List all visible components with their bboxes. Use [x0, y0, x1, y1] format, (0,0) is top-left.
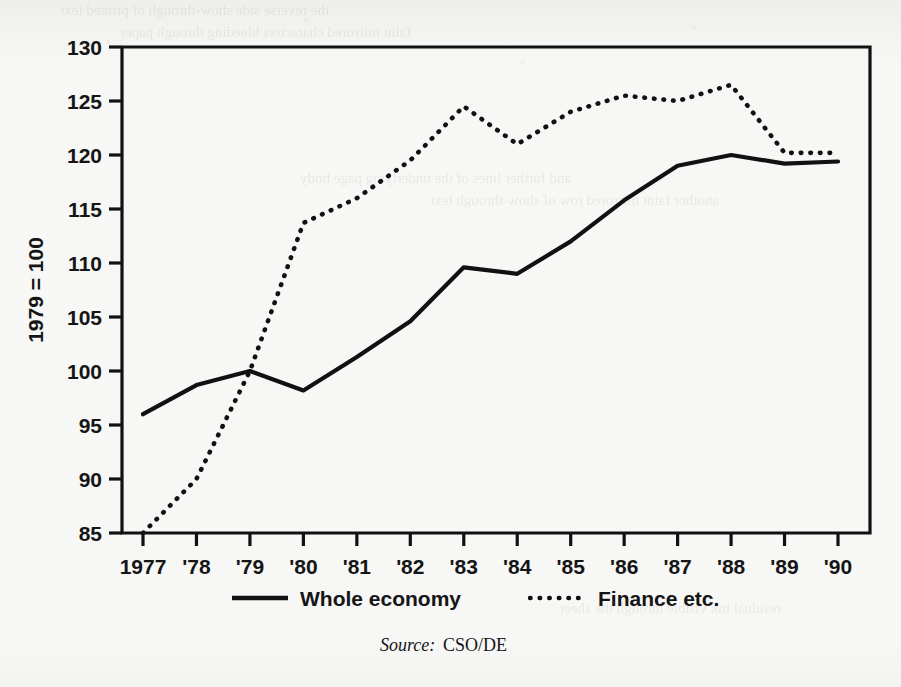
- y-axis-tick-label: 100: [67, 360, 102, 383]
- x-axis-tick-label: '88: [717, 555, 746, 578]
- source-note: Source: CSO/DE: [380, 635, 507, 655]
- line-chart-svg: 859095100105110115120125130 1977'78'79'8…: [0, 0, 901, 687]
- x-axis-tick-label: '84: [503, 555, 532, 578]
- source-value: CSO/DE: [443, 635, 507, 655]
- x-axis-tick-label: '85: [557, 555, 586, 578]
- x-axis-tick-label: '78: [182, 555, 211, 578]
- chart-legend: Whole economy Finance etc.: [232, 587, 719, 610]
- x-axis-tick-label: '79: [236, 555, 264, 578]
- x-axis-tick-label: '81: [343, 555, 372, 578]
- y-axis-tick-label: 85: [79, 522, 103, 545]
- y-axis-tick-label: 125: [67, 90, 102, 113]
- x-axis-tick-labels: 1977'78'79'80'81'82'83'84'85'86'87'88'89…: [120, 555, 853, 578]
- legend-label-finance-etc: Finance etc.: [598, 587, 719, 610]
- y-axis-tick-label: 90: [79, 468, 102, 491]
- x-axis-tick-label: '82: [396, 555, 424, 578]
- source-prefix-label: Source:: [380, 635, 435, 655]
- y-axis-tick-labels: 859095100105110115120125130: [67, 36, 102, 545]
- y-axis-tick-label: 130: [67, 36, 102, 59]
- x-axis-tick-label: '87: [663, 555, 691, 578]
- chart-figure: 859095100105110115120125130 1977'78'79'8…: [0, 0, 901, 687]
- y-axis-tick-label: 110: [68, 252, 102, 275]
- y-axis-tick-label: 120: [67, 144, 102, 167]
- y-axis-tick-label: 105: [67, 306, 102, 329]
- legend-label-whole-economy: Whole economy: [300, 587, 461, 610]
- series-line-finance-etc: [143, 85, 838, 533]
- y-axis-tick-marks: [109, 47, 122, 533]
- y-axis-tick-label: 95: [79, 414, 103, 437]
- data-series-layer: [143, 85, 838, 533]
- x-axis-tick-label: 1977: [120, 555, 167, 578]
- x-axis-tick-label: '80: [289, 555, 317, 578]
- x-axis-tick-label: '89: [770, 555, 798, 578]
- y-axis-tick-label: 115: [68, 198, 102, 221]
- y-axis-title: 1979 = 100: [24, 237, 47, 343]
- x-axis-tick-marks: [143, 533, 838, 546]
- x-axis-tick-label: '90: [824, 555, 852, 578]
- x-axis-tick-label: '86: [610, 555, 638, 578]
- x-axis-tick-label: '83: [450, 555, 478, 578]
